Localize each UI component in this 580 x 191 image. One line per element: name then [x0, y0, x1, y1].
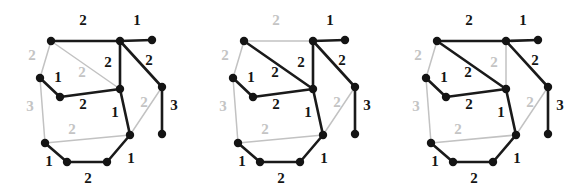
edge-weight-ik: 1 [238, 153, 246, 169]
graph-vertex-i [234, 139, 242, 147]
edge-weight-ad: 2 [28, 47, 36, 63]
edge-weight-gj: 2 [333, 94, 341, 110]
panel-right: 2122221321322121 [386, 0, 579, 191]
graph-edge-bg [506, 41, 548, 87]
graph-edge-ef [253, 89, 313, 97]
edge-weight-bg: 2 [531, 52, 539, 68]
figure-container: 2122221321322121212222132132212121222213… [0, 0, 580, 191]
graph-edge-bg [120, 41, 162, 87]
graph-vertex-l [103, 158, 111, 166]
edge-weight-bg: 2 [338, 52, 346, 68]
graph-vertex-l [296, 158, 304, 166]
edge-weight-bc: 1 [133, 12, 141, 28]
graph-vertex-e [249, 93, 257, 101]
graph-edge-bc [313, 40, 345, 41]
graph-edge-bc [120, 40, 152, 41]
edge-weight-kl: 2 [277, 170, 285, 186]
graph-vertex-f [502, 85, 510, 93]
edge-weight-ad: 2 [221, 47, 229, 63]
graph-vertex-f [116, 85, 124, 93]
edge-weight-di: 3 [26, 98, 34, 114]
edge-weight-ij: 2 [261, 121, 269, 137]
edge-weight-af: 2 [78, 64, 86, 80]
graph-vertex-j [319, 131, 327, 139]
graph-vertex-l [489, 158, 497, 166]
graph-edge-fj [313, 89, 323, 135]
edge-weight-gj: 2 [140, 94, 148, 110]
graph-vertex-h [351, 130, 359, 138]
edge-weight-de: 1 [247, 69, 255, 85]
graph-vertex-j [126, 131, 134, 139]
edge-weight-ij: 2 [68, 121, 76, 137]
graph-edge-bg [313, 41, 355, 87]
graph-vertex-d [36, 74, 44, 82]
edge-weight-ab: 2 [465, 12, 473, 28]
edge-weight-ef: 2 [79, 96, 87, 112]
edge-weight-ij: 2 [454, 121, 462, 137]
graph-vertex-b [502, 37, 510, 45]
graph-vertex-c [148, 36, 156, 44]
edge-weight-kl: 2 [470, 170, 478, 186]
graph-vertex-a [240, 37, 248, 45]
edge-weight-fj: 1 [111, 104, 119, 120]
graph-edge-di [40, 78, 45, 143]
edge-weight-ab: 2 [272, 12, 280, 28]
edge-weight-gj: 2 [526, 94, 534, 110]
edge-weight-ef: 2 [465, 96, 473, 112]
graph-edge-ef [446, 89, 506, 97]
edge-weight-de: 1 [440, 69, 448, 85]
graph-vertex-d [422, 74, 430, 82]
graph-edge-bc [506, 40, 538, 41]
graph-edge-ad [40, 41, 51, 78]
edge-weight-bf: 2 [490, 54, 498, 70]
graph-vertex-e [56, 93, 64, 101]
edge-weight-lj: 1 [127, 150, 135, 166]
graph-vertex-g [544, 83, 552, 91]
graph-vertex-i [41, 139, 49, 147]
edge-weight-af: 2 [464, 64, 472, 80]
edge-weight-bc: 1 [326, 12, 334, 28]
edge-weight-di: 3 [219, 98, 227, 114]
graph-edge-ad [426, 41, 437, 78]
edge-weight-ad: 2 [414, 47, 422, 63]
panel-left: 2122221321322121 [0, 0, 193, 191]
graph-vertex-f [309, 85, 317, 93]
edge-weight-bf: 2 [297, 54, 305, 70]
graph-edge-di [233, 78, 238, 143]
edge-weight-af: 2 [271, 64, 279, 80]
edge-weight-ef: 2 [272, 96, 280, 112]
graph-vertex-j [512, 131, 520, 139]
graph-vertex-h [544, 130, 552, 138]
edge-weight-gh: 3 [170, 97, 178, 113]
graph-vertex-i [427, 139, 435, 147]
edge-weight-lj: 1 [320, 150, 328, 166]
graph-vertex-h [158, 130, 166, 138]
edge-weight-fj: 1 [304, 104, 312, 120]
graph-vertex-c [341, 36, 349, 44]
edge-weight-di: 3 [412, 98, 420, 114]
edge-weight-bc: 1 [519, 12, 527, 28]
graph-vertex-k [449, 158, 457, 166]
edge-weight-lj: 1 [513, 150, 521, 166]
edge-weight-ik: 1 [45, 153, 53, 169]
graph-vertex-k [256, 158, 264, 166]
graph-vertex-b [116, 37, 124, 45]
panel-middle: 2122221321322121 [193, 0, 386, 191]
edge-weight-ik: 1 [431, 153, 439, 169]
edge-weight-gh: 3 [363, 97, 371, 113]
panel-left-canvas: 2122221321322121 [0, 0, 193, 191]
graph-vertex-a [433, 37, 441, 45]
edge-weight-de: 1 [54, 69, 62, 85]
graph-vertex-g [158, 83, 166, 91]
graph-edge-fj [120, 89, 130, 135]
graph-vertex-k [63, 158, 71, 166]
graph-vertex-g [351, 83, 359, 91]
edge-weight-kl: 2 [84, 170, 92, 186]
graph-edge-ad [233, 41, 244, 78]
graph-edge-ij [238, 135, 323, 143]
graph-vertex-b [309, 37, 317, 45]
panel-right-canvas: 2122221321322121 [386, 0, 579, 191]
graph-edge-fj [506, 89, 516, 135]
graph-edge-ij [431, 135, 516, 143]
graph-vertex-a [47, 37, 55, 45]
